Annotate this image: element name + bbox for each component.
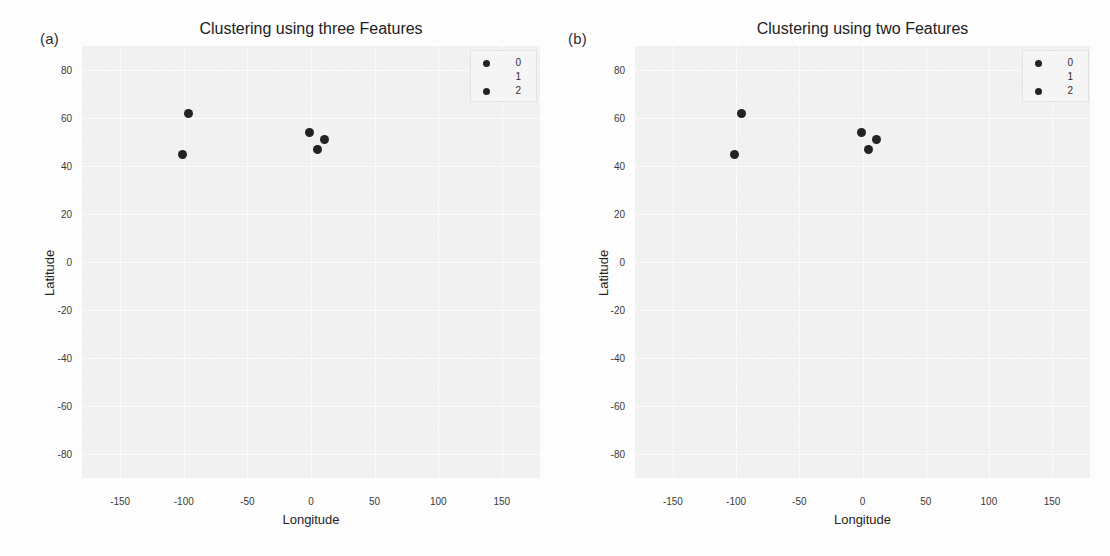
scatter-point xyxy=(313,145,322,154)
panel-a: (a) Clustering using three Features 8060… xyxy=(0,0,555,556)
figure-canvas: (a) Clustering using three Features 8060… xyxy=(0,0,1110,556)
x-tick-label: -150 xyxy=(95,496,145,507)
y-tick-label: -80 xyxy=(585,449,625,460)
legend-a[interactable]: 012 xyxy=(470,50,537,102)
y-tick-label: -20 xyxy=(32,305,72,316)
x-tick-label: -100 xyxy=(159,496,209,507)
legend-item-label: 2 xyxy=(515,84,521,98)
y-tick-label: 60 xyxy=(585,113,625,124)
legend-marker-icon xyxy=(483,88,490,95)
x-axis-label-b: Longitude xyxy=(635,512,1090,527)
legend-item[interactable]: 0 xyxy=(1029,56,1081,70)
x-tick-label: -50 xyxy=(774,496,824,507)
y-tick-label: -60 xyxy=(32,401,72,412)
grid-line-vertical xyxy=(247,46,248,478)
x-tick-label: -150 xyxy=(648,496,698,507)
y-tick-label: -40 xyxy=(585,353,625,364)
legend-marker-icon xyxy=(1035,74,1042,81)
legend-item[interactable]: 0 xyxy=(477,56,529,70)
y-tick-label: 40 xyxy=(585,161,625,172)
grid-line-vertical xyxy=(1052,46,1053,478)
legend-item-label: 1 xyxy=(515,70,521,84)
grid-line-vertical xyxy=(863,46,864,478)
legend-item-label: 0 xyxy=(1067,56,1073,70)
x-tick-label: -50 xyxy=(222,496,272,507)
y-tick-label: 60 xyxy=(32,113,72,124)
legend-marker-icon xyxy=(1035,60,1042,67)
chart-title-a: Clustering using three Features xyxy=(82,20,540,38)
legend-item-label: 1 xyxy=(1067,70,1073,84)
y-tick-label: -40 xyxy=(32,353,72,364)
legend-item[interactable]: 1 xyxy=(477,70,529,84)
legend-marker-icon xyxy=(1035,88,1042,95)
y-tick-label: -60 xyxy=(585,401,625,412)
y-tick-label: 80 xyxy=(585,65,625,76)
legend-item-label: 2 xyxy=(1067,84,1073,98)
y-tick-label: 40 xyxy=(32,161,72,172)
grid-line-vertical xyxy=(989,46,990,478)
plot-area-a xyxy=(82,46,540,478)
y-tick-label: -80 xyxy=(32,449,72,460)
scatter-point xyxy=(737,109,746,118)
grid-line-vertical xyxy=(438,46,439,478)
grid-line-vertical xyxy=(502,46,503,478)
panel-tag-a: (a) xyxy=(40,30,59,47)
x-tick-label: 50 xyxy=(350,496,400,507)
grid-line-vertical xyxy=(673,46,674,478)
x-tick-label: -100 xyxy=(711,496,761,507)
legend-item-label: 0 xyxy=(515,56,521,70)
scatter-point xyxy=(872,135,881,144)
scatter-point xyxy=(184,109,193,118)
legend-item[interactable]: 1 xyxy=(1029,70,1081,84)
y-tick-label: -20 xyxy=(585,305,625,316)
grid-line-vertical xyxy=(375,46,376,478)
scatter-point xyxy=(320,135,329,144)
x-axis-label-a: Longitude xyxy=(82,512,540,527)
grid-line-vertical xyxy=(120,46,121,478)
legend-marker-icon xyxy=(483,74,490,81)
legend-item[interactable]: 2 xyxy=(477,84,529,98)
x-tick-label: 100 xyxy=(413,496,463,507)
y-tick-label: 80 xyxy=(32,65,72,76)
y-axis-label-a: Latitude xyxy=(42,250,57,296)
grid-line-vertical xyxy=(799,46,800,478)
scatter-point xyxy=(857,128,866,137)
y-tick-label: 20 xyxy=(585,209,625,220)
x-tick-label: 150 xyxy=(477,496,527,507)
x-tick-label: 0 xyxy=(838,496,888,507)
y-axis-label-b: Latitude xyxy=(596,250,611,296)
x-tick-label: 50 xyxy=(901,496,951,507)
legend-marker-icon xyxy=(483,60,490,67)
scatter-point xyxy=(864,145,873,154)
legend-b[interactable]: 012 xyxy=(1022,50,1089,102)
x-tick-label: 100 xyxy=(964,496,1014,507)
chart-title-b: Clustering using two Features xyxy=(635,20,1090,38)
scatter-point xyxy=(178,150,187,159)
scatter-point xyxy=(305,128,314,137)
legend-item[interactable]: 2 xyxy=(1029,84,1081,98)
x-tick-label: 150 xyxy=(1027,496,1077,507)
x-tick-label: 0 xyxy=(286,496,336,507)
panel-b: (b) Clustering using two Features 806040… xyxy=(555,0,1110,556)
y-tick-label: 20 xyxy=(32,209,72,220)
grid-line-vertical xyxy=(311,46,312,478)
scatter-point xyxy=(730,150,739,159)
grid-line-vertical xyxy=(926,46,927,478)
panel-tag-b: (b) xyxy=(568,30,587,47)
plot-area-b xyxy=(635,46,1090,478)
